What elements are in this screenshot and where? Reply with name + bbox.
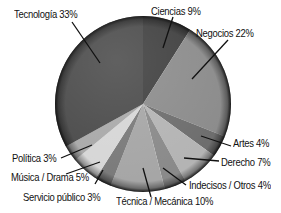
label-derecho: Derecho 7% (221, 156, 270, 168)
label-tecnologia: Tecnología 33% (14, 8, 77, 20)
label-musica-drama: Música / Drama 5% (11, 171, 89, 183)
label-indecisos-otros: Indecisos / Otros 4% (189, 179, 271, 191)
label-tecnica-mecanica: Técnica / Mecánica 10% (116, 195, 213, 207)
label-ciencias: Ciencias 9% (151, 5, 201, 17)
label-artes: Artes 4% (233, 137, 269, 149)
label-negocios: Negocios 22% (196, 27, 254, 39)
label-servicio-publico: Servicio público 3% (23, 191, 100, 203)
label-politica: Política 3% (12, 152, 56, 164)
pie-gloss (55, 16, 231, 192)
